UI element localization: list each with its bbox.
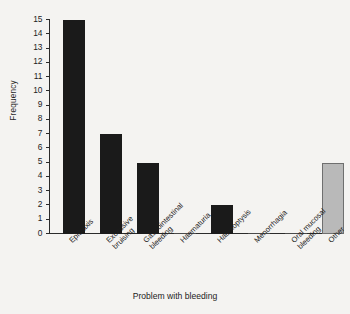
y-tick-label: 7 (38, 128, 43, 138)
x-axis-title: Problem with bleeding (0, 291, 350, 301)
y-tick: 11 (46, 76, 51, 77)
y-axis-title: Frequency (9, 66, 18, 136)
y-tick-label: 13 (33, 42, 42, 52)
y-tick-label: 2 (38, 199, 43, 209)
y-tick: 15 (46, 19, 51, 20)
y-tick: 5 (46, 162, 51, 163)
bar-chart: Frequency 0123456789101112131415 Epistax… (0, 0, 350, 314)
y-tick-label: 5 (38, 156, 43, 166)
y-tick-label: 6 (38, 142, 43, 152)
y-tick: 0 (46, 233, 51, 234)
y-tick: 14 (46, 33, 51, 34)
y-tick-label: 9 (38, 99, 43, 109)
plot-area: 0123456789101112131415 (49, 20, 341, 234)
y-tick: 9 (46, 105, 51, 106)
bar (100, 134, 122, 234)
y-tick: 12 (46, 62, 51, 63)
y-tick: 6 (46, 147, 51, 148)
y-tick: 10 (46, 90, 51, 91)
y-tick: 13 (46, 48, 51, 49)
bar (63, 20, 85, 234)
y-tick-label: 4 (38, 170, 43, 180)
y-tick: 4 (46, 176, 51, 177)
y-tick: 1 (46, 219, 51, 220)
y-tick-label: 1 (38, 213, 43, 223)
y-tick: 2 (46, 204, 51, 205)
y-tick-label: 3 (38, 185, 43, 195)
y-tick-label: 10 (33, 85, 42, 95)
y-tick-label: 8 (38, 113, 43, 123)
y-tick-label: 12 (33, 56, 42, 66)
y-tick: 3 (46, 190, 51, 191)
y-tick-label: 0 (38, 228, 43, 238)
y-tick: 8 (46, 119, 51, 120)
y-tick-label: 15 (33, 14, 42, 24)
y-tick: 7 (46, 133, 51, 134)
y-tick-label: 14 (33, 28, 42, 38)
y-axis-line (49, 20, 50, 234)
y-tick-label: 11 (34, 71, 43, 81)
